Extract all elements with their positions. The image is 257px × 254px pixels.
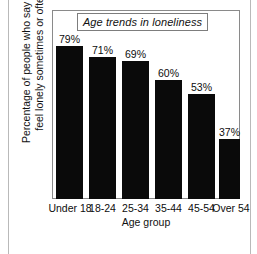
bar-25-34[interactable] [122,61,149,199]
category-label-over-54: Over 54 [211,202,251,214]
y-axis-label: Percentage of people who say they feel l… [16,0,50,154]
category-label-18-24: 18-24 [84,202,121,214]
bar-under-18[interactable] [56,46,83,199]
category-label-under-18: Under 18 [48,202,92,214]
category-label-35-44: 35-44 [150,202,187,214]
category-label-25-34: 25-34 [117,202,154,214]
category-label-45-54: 45-54 [183,202,220,214]
chart-title-box: Age trends in loneliness [77,13,208,31]
bar-35-44[interactable] [155,80,182,199]
x-axis-label: Age group [52,216,240,228]
chart-title: Age trends in loneliness [83,16,202,28]
bar-over-54[interactable] [219,139,240,199]
y-axis-label-line-2: feel lonely sometimes or often [33,0,46,131]
bar-chart-figure: Age trends in loneliness Percentage of p… [0,0,257,254]
bar-18-24[interactable] [89,57,116,199]
y-axis-label-line-1: Percentage of people who say they [20,0,33,143]
page-frame-left-rule [8,0,9,254]
bar-45-54[interactable] [188,94,215,199]
page-frame-right-rule [250,0,251,254]
